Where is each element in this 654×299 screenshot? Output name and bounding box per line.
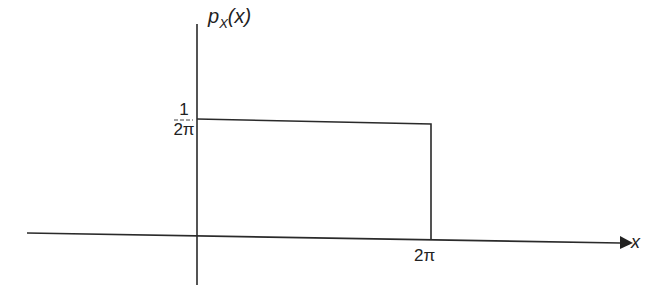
y-tick-numerator: 1 <box>172 101 196 121</box>
x-tick-label: 2π <box>414 247 435 264</box>
y-axis-label: pX(x) <box>208 6 251 30</box>
y-tick-denominator: 2π <box>172 121 196 141</box>
plot-canvas <box>0 0 654 299</box>
y-tick-label: 1 2π <box>172 101 196 141</box>
x-axis <box>27 233 620 243</box>
x-axis-label: x <box>631 233 640 251</box>
pdf-rectangle <box>197 119 431 239</box>
